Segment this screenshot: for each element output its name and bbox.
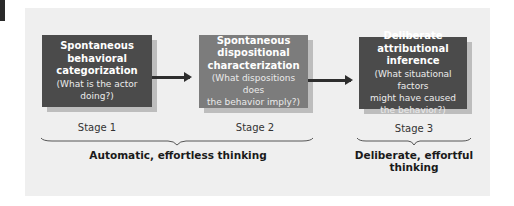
stage-3-box: Deliberate attributional inference (What… bbox=[359, 37, 467, 109]
stage-3-question-line-2: might have caused bbox=[370, 92, 456, 104]
stage-3-question-line-3: the behavior?) bbox=[380, 104, 445, 116]
stage-1-question-line-1: (What is the actor doing?) bbox=[44, 78, 150, 102]
group-deliberate-label: Deliberate, effortful thinking bbox=[354, 149, 474, 173]
stage-1-title-line-1: Spontaneous bbox=[60, 40, 134, 53]
stage-1-box: Spontaneous behavioral categorization (W… bbox=[42, 35, 152, 107]
stage-2-question-line-1: (What dispositions does bbox=[201, 72, 306, 96]
group-automatic-label: Automatic, effortless thinking bbox=[78, 149, 278, 161]
stage-2-title-line-1: Spontaneous bbox=[217, 35, 291, 48]
group-deliberate-label-line-1: Deliberate, effortful bbox=[354, 149, 474, 161]
stage-2-label: Stage 2 bbox=[215, 122, 295, 133]
brace-deliberate-icon bbox=[356, 136, 472, 146]
stage-2-title-line-2: dispositional bbox=[217, 47, 289, 60]
stage-3-title-line-1: Deliberate bbox=[383, 30, 442, 43]
stage-3-title-line-2: attributional inference bbox=[361, 43, 465, 68]
corner-marker bbox=[0, 0, 5, 21]
stage-1-title-line-2: behavioral bbox=[67, 53, 127, 66]
stage-1-title-line-3: categorization bbox=[56, 65, 137, 78]
stage-1-label: Stage 1 bbox=[57, 122, 137, 133]
arrow-stage1-to-stage2-icon bbox=[152, 76, 190, 79]
stage-2-box-content: Spontaneous dispositional characterizati… bbox=[199, 35, 308, 108]
brace-automatic-icon bbox=[40, 136, 314, 146]
stage-3-box-content: Deliberate attributional inference (What… bbox=[359, 37, 467, 109]
group-deliberate-label-line-2: thinking bbox=[354, 161, 474, 173]
arrow-stage2-to-stage3-icon bbox=[308, 79, 351, 82]
stage-2-title-line-3: characterization bbox=[207, 60, 299, 73]
stage-2-box: Spontaneous dispositional characterizati… bbox=[199, 35, 308, 108]
stage-3-label: Stage 3 bbox=[374, 123, 454, 134]
stage-3-question-line-1: (What situational factors bbox=[361, 68, 465, 92]
stage-1-box-content: Spontaneous behavioral categorization (W… bbox=[42, 35, 152, 107]
stage-2-question-line-2: the behavior imply?) bbox=[207, 96, 300, 108]
